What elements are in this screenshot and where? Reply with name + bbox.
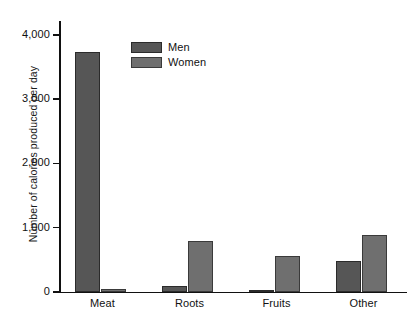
x-axis-label-roots: Roots	[146, 297, 233, 309]
bar-meat-women[interactable]	[101, 289, 126, 292]
y-axis-tick-label: 0	[0, 285, 50, 297]
x-axis-label-meat: Meat	[59, 297, 146, 309]
bar-chart: Number of calories produced per day 01,0…	[0, 0, 410, 331]
legend-label-women: Women	[168, 57, 206, 68]
legend-swatch-men-icon	[131, 42, 162, 53]
legend-item-men[interactable]: Men	[131, 41, 206, 54]
legend-swatch-women-icon	[131, 57, 162, 68]
x-axis-label-other: Other	[320, 297, 407, 309]
y-axis-tick-label: 1,000	[0, 221, 50, 233]
bar-fruits-women[interactable]	[275, 256, 300, 292]
x-axis-label-fruits: Fruits	[233, 297, 320, 309]
bar-other-women[interactable]	[362, 235, 387, 292]
y-axis-tick-label: 4,000	[0, 28, 50, 40]
legend-item-women[interactable]: Women	[131, 56, 206, 69]
bar-fruits-men[interactable]	[249, 290, 274, 292]
bar-group	[320, 22, 407, 292]
legend-label-men: Men	[168, 42, 190, 53]
y-axis-tick-label: 2,000	[0, 156, 50, 168]
bar-meat-men[interactable]	[75, 52, 100, 292]
bar-roots-women[interactable]	[188, 241, 213, 292]
plot-area	[59, 22, 407, 292]
bar-group	[233, 22, 320, 292]
y-axis-title: Number of calories produced per day	[27, 29, 39, 279]
chart-legend: Men Women	[131, 41, 206, 69]
y-axis-tick-label: 3,000	[0, 92, 50, 104]
bar-roots-men[interactable]	[162, 286, 187, 292]
bar-other-men[interactable]	[336, 261, 361, 292]
